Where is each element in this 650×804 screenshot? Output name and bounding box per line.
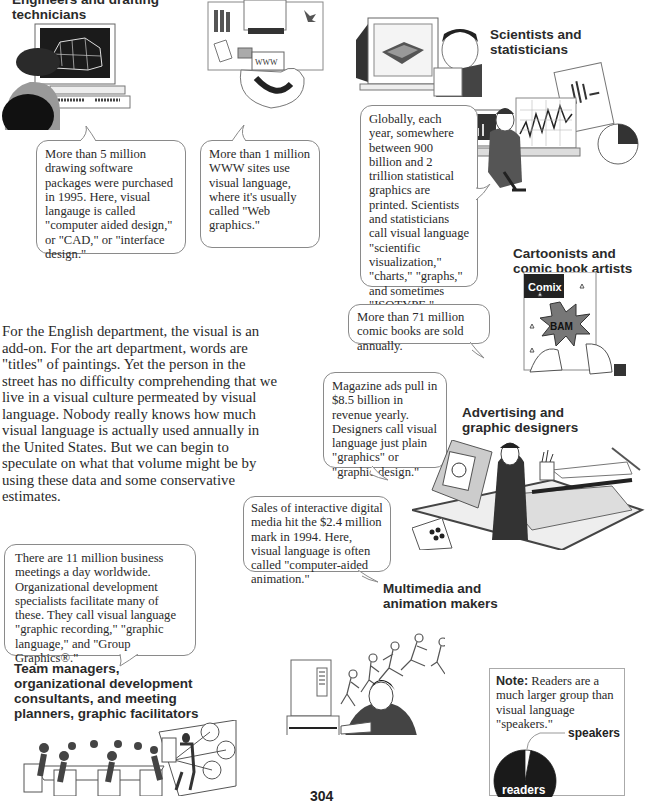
speech-bubble-cartoonists: More than 71 million comic books are sol…	[348, 304, 490, 344]
animator-illustration	[285, 610, 445, 735]
bubble-tail	[228, 124, 250, 142]
web-designer-illustration: WWW	[196, 0, 346, 110]
engineer-cad-illustration	[0, 20, 135, 130]
speakers-leader-line	[527, 733, 565, 749]
bubble-tail	[470, 342, 486, 360]
heading-advertising: Advertising and graphic designers	[462, 405, 612, 435]
speech-bubble-multimedia: Sales of interactive digital media hit t…	[243, 496, 391, 572]
graphic-designer-illustration	[412, 440, 650, 550]
scientist-desk-illustration	[460, 62, 650, 197]
page-number: 304	[310, 788, 333, 804]
bubble-text-web: More than 1 million WWW sites use visual…	[209, 147, 310, 232]
speech-bubble-scientists: Globally, each year, somewhere between 9…	[360, 105, 478, 287]
speech-bubble-web: More than 1 million WWW sites use visual…	[200, 140, 320, 248]
pie-label-speakers: speakers	[568, 726, 620, 740]
bubble-text-engineers: More than 5 million drawing software pac…	[45, 147, 173, 261]
note-box: Note: Readers are a much larger group th…	[489, 668, 625, 796]
comic-burst-text: BAM	[550, 321, 573, 332]
heading-scientists: Scientists and statisticians	[490, 27, 640, 57]
speech-bubble-team: There are 11 million business meetings a…	[4, 544, 196, 656]
bubble-text-cartoonists: More than 71 million comic books are sol…	[357, 310, 464, 353]
bubble-tail	[78, 126, 98, 142]
bubble-tail	[370, 466, 390, 482]
comic-title: Comix	[528, 281, 563, 293]
bubble-text-scientists: Globally, each year, somewhere between 9…	[369, 112, 469, 312]
readers-vs-speakers-pie-chart: speakers readers	[490, 669, 626, 797]
speech-bubble-engineers: More than 5 million drawing software pac…	[36, 140, 186, 254]
meeting-illustration	[14, 720, 239, 796]
bubble-tail	[476, 184, 492, 206]
intro-paragraph: For the English department, the visual i…	[2, 323, 280, 505]
heading-multimedia: Multimedia and animation makers	[383, 581, 533, 611]
www-screen-label: WWW	[255, 58, 278, 67]
heading-engineers: Engineers and drafting technicians	[12, 0, 212, 22]
bubble-tail	[358, 570, 380, 584]
comic-book-illustration: Comix BAM	[520, 272, 630, 377]
pie-label-readers: readers	[502, 783, 546, 797]
heading-team: Team managers, organizational developmen…	[14, 661, 204, 721]
bubble-text-team: There are 11 million business meetings a…	[15, 551, 176, 665]
